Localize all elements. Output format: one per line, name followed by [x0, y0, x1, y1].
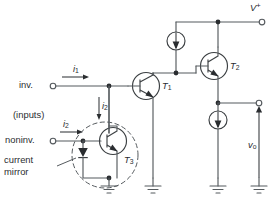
current-i1-head [83, 75, 89, 80]
transistor-t2-emitter-arrow [210, 70, 218, 77]
label-transistor-t1: T1 [162, 81, 172, 92]
label-noninverting-input: noninv. [5, 135, 35, 144]
current-i1-arrow [62, 75, 89, 80]
label-output-voltage-sub: o [253, 143, 257, 150]
label-output-voltage: vo [248, 140, 256, 151]
ground-output-branch [210, 178, 226, 193]
transistor-t1-emitter-arrow [145, 91, 153, 98]
label-transistor-t2: T2 [230, 61, 240, 72]
transistor-t3-envelope [100, 128, 127, 155]
terminal-output-node[interactable] [256, 100, 262, 106]
circuit-diagram: V+ i1 inv. (inputs) i2 i2 noninv. curren… [0, 0, 279, 205]
schematic-canvas [0, 0, 279, 205]
terminal-vplus-node[interactable] [259, 19, 265, 25]
label-current-i2-in-sub: 2 [65, 122, 69, 129]
noninverting-input-line [50, 138, 85, 144]
terminal-inverting-node[interactable] [50, 83, 56, 89]
label-inputs-note: (inputs) [13, 110, 44, 119]
current-source-lower[interactable] [209, 111, 227, 178]
supply-rail-group [176, 19, 265, 47]
label-current-i1: i1 [73, 64, 79, 75]
label-supply-positive-sup: + [256, 1, 260, 10]
current-source-lower-arrow-head [215, 121, 222, 129]
wire-diode-bottom [83, 158, 109, 178]
current-i2-down-arrow [97, 97, 102, 120]
transistor-t2[interactable] [196, 47, 228, 103]
label-transistor-t2-sub: 2 [236, 64, 240, 71]
transistor-t3-emitter-arrow [109, 145, 117, 152]
label-current-i2-down: i2 [102, 101, 108, 112]
diode-mirror-body [78, 148, 88, 157]
ground-output-terminal [251, 178, 267, 193]
label-supply-positive: V+ [250, 2, 261, 13]
label-transistor-t3-sub: 3 [130, 158, 134, 165]
current-i2-in-head [77, 130, 83, 135]
ground-t3 [101, 178, 117, 193]
label-transistor-t1-sub: 1 [168, 84, 172, 91]
ground-t1-emitter [145, 178, 161, 193]
junction-cs-t1-t2 [174, 71, 179, 76]
current-source-upper-arrow-head [173, 42, 180, 50]
current-source-upper[interactable] [167, 32, 185, 73]
label-current-i1-sub: 1 [75, 67, 79, 74]
label-current-mirror-line2: mirror [4, 167, 28, 176]
label-current-mirror-line1: current [4, 155, 33, 164]
current-i2-in-arrow [60, 130, 83, 135]
transistor-t1-collector-lead [140, 75, 153, 82]
label-current-i2-in: i2 [63, 119, 69, 130]
junction-supply-t2 [216, 20, 221, 25]
label-inverting-input: inv. [19, 80, 33, 89]
label-transistor-t3: T3 [124, 155, 134, 166]
output-voltage-arrow-head [256, 106, 262, 112]
terminal-noninverting-node[interactable] [50, 138, 56, 144]
t1-t2-interconnect [153, 71, 196, 76]
label-current-i2-down-sub: 2 [104, 104, 108, 111]
transistor-t2-collector-lead [208, 56, 218, 62]
current-i2-down-head [97, 114, 102, 120]
